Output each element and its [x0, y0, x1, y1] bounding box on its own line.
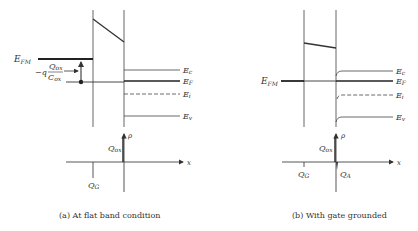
- qa-label: QA: [340, 170, 352, 179]
- ec-label: Ec: [395, 67, 406, 76]
- caption-a: (a) At flat band condition: [59, 211, 160, 220]
- ev-label: Ev: [395, 113, 406, 122]
- panel-b-charge-diagram: ρ x Qox QG QA: [282, 132, 401, 192]
- ei-label: Ei: [182, 90, 191, 99]
- fermi-reference-dot: [79, 80, 83, 84]
- qox-label: Qox: [108, 144, 122, 153]
- x-label: x: [397, 159, 401, 167]
- rho-label: ρ: [127, 132, 133, 140]
- efm-label: EFM: [13, 54, 32, 65]
- conduction-band-edge: [336, 71, 393, 76]
- rho-label: ρ: [340, 132, 346, 140]
- ef-label: EF: [182, 77, 194, 86]
- mos-band-diagrams: EFM −q Qox Cox Ec EF Ei Ev ρ x Qox QG (a…: [0, 0, 418, 231]
- cox-denominator: Cox: [48, 73, 62, 82]
- panel-a-charge-diagram: ρ x Qox QG: [66, 132, 191, 192]
- x-label: x: [187, 159, 191, 167]
- ev-label: Ev: [182, 112, 193, 121]
- qox-cox-prefix: −q: [35, 68, 47, 77]
- panel-a-band-diagram: EFM −q Qox Cox Ec EF Ei Ev: [13, 10, 194, 127]
- oxide-conduction-band: [304, 43, 336, 48]
- ei-label: Ei: [395, 91, 404, 100]
- panel-b-band-diagram: EFM Ec EF Ei Ev: [260, 10, 407, 127]
- intrinsic-level: [337, 95, 393, 99]
- efm-label: EFM: [260, 76, 279, 87]
- caption-b: (b) With gate grounded: [292, 211, 387, 220]
- qox-label: Qox: [319, 144, 333, 153]
- qox-numerator: Qox: [49, 62, 63, 71]
- qg-label: QG: [88, 181, 100, 190]
- ef-label: EF: [395, 77, 407, 86]
- qg-label: QG: [298, 170, 310, 179]
- ec-label: Ec: [182, 66, 193, 75]
- oxide-conduction-band: [93, 19, 124, 42]
- valence-band-edge: [336, 117, 393, 122]
